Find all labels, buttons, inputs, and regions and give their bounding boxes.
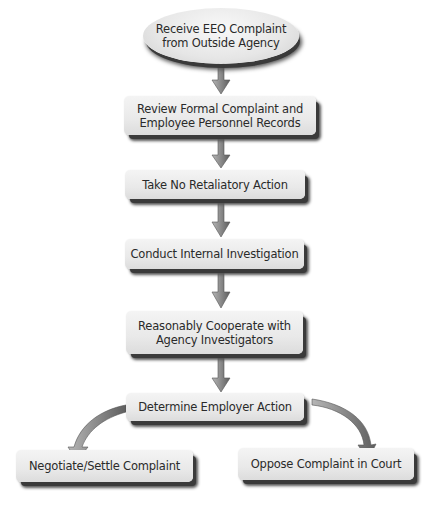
node-label-line2: Agency Investigators: [156, 333, 273, 347]
node-label: Take No Retaliatory Action: [142, 178, 288, 192]
start-node-receive-complaint: Receive EEO Complaint from Outside Agenc…: [143, 8, 299, 64]
node-label-line2: Employee Personnel Records: [140, 116, 301, 130]
decision-node-determine-action: Determine Employer Action: [126, 393, 304, 421]
node-label: Determine Employer Action: [138, 400, 292, 414]
node-label: Oppose Complaint in Court: [251, 457, 402, 471]
node-label-line1: Review Formal Complaint and: [137, 102, 303, 116]
node-label: Negotiate/Settle Complaint: [29, 459, 180, 473]
arrow-cooperate-determine: [212, 358, 230, 392]
process-node-cooperate-investigators: Reasonably Cooperate with Agency Investi…: [126, 311, 303, 354]
arrow-receive-review: [212, 62, 230, 94]
outcome-node-oppose-in-court: Oppose Complaint in Court: [238, 448, 414, 480]
node-label-line1: Reasonably Cooperate with: [138, 319, 291, 333]
process-node-no-retaliation: Take No Retaliatory Action: [125, 170, 305, 199]
node-label-line1: Receive EEO Complaint: [156, 22, 287, 36]
node-label-line2: from Outside Agency: [162, 36, 279, 50]
process-node-internal-investigation: Conduct Internal Investigation: [125, 239, 304, 269]
arrow-review-noretaliation: [212, 138, 230, 168]
outcome-node-settle-complaint: Negotiate/Settle Complaint: [16, 450, 193, 482]
arrow-noretaliation-investigate: [212, 202, 230, 237]
node-label: Conduct Internal Investigation: [130, 247, 298, 261]
arrow-investigate-cooperate: [212, 272, 230, 308]
process-node-review-records: Review Formal Complaint and Employee Per…: [124, 96, 316, 135]
